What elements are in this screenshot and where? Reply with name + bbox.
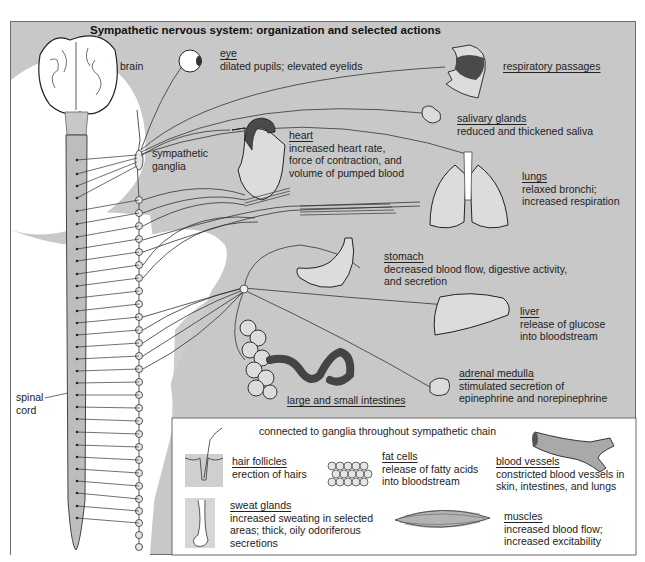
- label-muscles: muscles increased blood flow; increased …: [504, 510, 603, 548]
- adrenal-medulla-icon: [430, 378, 450, 396]
- label-brain: brain: [120, 60, 143, 73]
- label-stomach: stomach decreased blood flow, digestive …: [384, 250, 567, 288]
- liver-icon: [434, 294, 509, 335]
- label-hair-follicles: hair follicles erection of hairs: [232, 455, 307, 480]
- fat-cells-icon: [328, 462, 372, 486]
- label-spinal-cord: spinal cord: [16, 391, 43, 416]
- salivary-gland-icon: [422, 106, 441, 123]
- intestines-icon: [240, 320, 350, 399]
- sweat-gland-icon: [185, 498, 215, 548]
- celiac-ganglion: [240, 285, 248, 293]
- page-title: Sympathetic nervous system: organization…: [90, 24, 441, 36]
- label-adrenal-medulla: adrenal medulla stimulated secretion of …: [459, 367, 607, 405]
- inset-heading: connected to ganglia throughout sympathe…: [259, 425, 496, 438]
- heart-icon: [232, 118, 285, 200]
- eye-icon: [179, 50, 202, 72]
- label-respiratory-passages: respiratory passages: [503, 60, 600, 73]
- label-intestines: large and small intestines: [287, 394, 405, 407]
- label-liver: liver release of glucose into bloodstrea…: [520, 305, 605, 343]
- lungs-icon: [430, 152, 508, 228]
- respiratory-passages-icon: [446, 45, 485, 98]
- label-lungs: lungs relaxed bronchi; increased respira…: [522, 170, 619, 208]
- label-sympathetic-ganglia: sympathetic ganglia: [152, 147, 208, 172]
- label-eye: eye dilated pupils; elevated eyelids: [220, 47, 362, 72]
- label-sweat-glands: sweat glands increased sweating in selec…: [230, 499, 373, 549]
- label-blood-vessels: blood vessels constricted blood vessels …: [496, 455, 624, 493]
- label-fat-cells: fat cells release of fatty acids into bl…: [382, 450, 478, 488]
- label-salivary-glands: salivary glands reduced and thickened sa…: [457, 112, 593, 137]
- label-heart: heart increased heart rate, force of con…: [289, 129, 404, 179]
